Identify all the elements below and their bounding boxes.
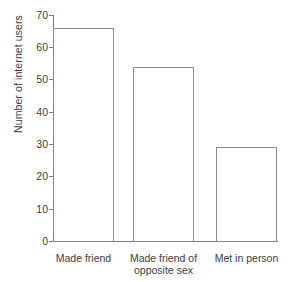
- y-tick-label-30: 30: [26, 139, 48, 150]
- y-tick-label-70: 70: [26, 10, 48, 21]
- y-tick-label-20: 20: [26, 171, 48, 182]
- x-category-label-made-friend: Made friend: [38, 252, 129, 264]
- y-tick-label-10: 10: [26, 204, 48, 215]
- x-category-label-made-friend-opposite-sex: Made friend of opposite sex: [118, 252, 209, 276]
- y-axis-title: Number of internet users: [12, 0, 24, 154]
- bar-made-friend-opposite-sex: [133, 67, 194, 242]
- y-tick-label-0: 0: [26, 236, 48, 247]
- bar-chart: Number of internet users 70 60 50 40 30 …: [0, 0, 290, 282]
- bar-met-in-person: [216, 147, 277, 242]
- bar-made-friend: [53, 28, 114, 242]
- x-category-label-met-in-person: Met in person: [201, 252, 290, 264]
- y-tick-label-50: 50: [26, 74, 48, 85]
- y-tick-label-60: 60: [26, 42, 48, 53]
- y-tick-label-40: 40: [26, 107, 48, 118]
